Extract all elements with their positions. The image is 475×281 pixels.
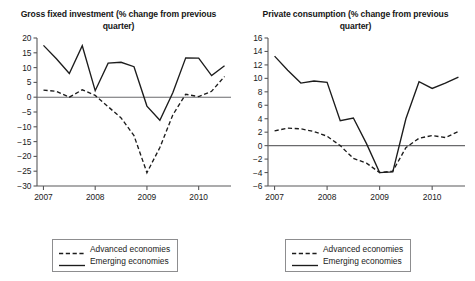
y-tick-label: −15	[17, 137, 32, 147]
y-tick-label: −2	[253, 154, 263, 164]
y-tick-label: −25	[17, 166, 32, 176]
legend-label: Advanced economies	[323, 244, 403, 255]
legend-right: Advanced economiesEmerging economies	[285, 239, 411, 272]
y-tick-label: 0	[27, 92, 32, 102]
series-line-dashed	[43, 76, 224, 172]
solid-line-icon	[59, 256, 85, 266]
y-tick-label: −20	[17, 151, 32, 161]
y-tick-label: 6	[258, 100, 263, 110]
y-tick-label: 4	[258, 114, 263, 124]
y-tick-label: 0	[258, 141, 263, 151]
chart-title-left: Gross fixed investment (% change from pr…	[0, 0, 237, 32]
y-tick-label: −5	[22, 107, 32, 117]
y-tick-label: 10	[253, 73, 263, 83]
x-tick-label: 2007	[265, 192, 284, 202]
x-tick-label: 2008	[318, 192, 337, 202]
y-tick-label: 20	[22, 33, 32, 43]
dashed-line-icon	[59, 244, 85, 254]
chart-panels: Gross fixed investment (% change from pr…	[0, 0, 475, 281]
x-tick-label: 2010	[189, 192, 208, 202]
y-tick-label: −30	[17, 181, 32, 191]
x-tick-label: 2009	[138, 192, 157, 202]
panel-private-consumption: Private consumption (% change from previ…	[237, 0, 474, 281]
legend-left: Advanced economiesEmerging economies	[52, 239, 178, 272]
y-tick-label: −4	[253, 168, 263, 178]
legend-row: Advanced economies	[59, 243, 170, 255]
y-tick-label: 12	[253, 60, 263, 70]
x-tick-label: 2007	[34, 192, 53, 202]
legend-label: Advanced economies	[90, 244, 170, 255]
legend-label: Emerging economies	[90, 256, 169, 267]
plot-area-right: 1614121086420−2−4−62007200820092010	[237, 32, 474, 207]
y-tick-label: −10	[17, 122, 32, 132]
y-tick-label: 14	[253, 46, 263, 56]
y-tick-label: 10	[22, 63, 32, 73]
chart-title-right: Private consumption (% change from previ…	[237, 0, 474, 32]
line-chart-left: 20151050−5−10−15−20−25−30200720082009201…	[0, 32, 237, 202]
plot-area-left: 20151050−5−10−15−20−25−30200720082009201…	[0, 32, 237, 207]
series-line-solid	[43, 45, 224, 120]
y-tick-label: −6	[253, 181, 263, 191]
y-tick-label: 5	[27, 77, 32, 87]
x-tick-label: 2009	[370, 192, 389, 202]
x-tick-label: 2010	[423, 192, 442, 202]
y-tick-label: 16	[253, 33, 263, 43]
series-line-solid	[275, 56, 459, 172]
series-line-dashed	[275, 128, 459, 172]
panel-gross-fixed-investment: Gross fixed investment (% change from pr…	[0, 0, 237, 281]
y-tick-label: 8	[258, 87, 263, 97]
y-tick-label: 2	[258, 127, 263, 137]
dashed-line-icon	[292, 244, 318, 254]
line-chart-right: 1614121086420−2−4−62007200820092010	[237, 32, 474, 202]
solid-line-icon	[292, 256, 318, 266]
legend-label: Emerging economies	[323, 256, 402, 267]
legend-row: Advanced economies	[292, 243, 403, 255]
x-tick-label: 2008	[86, 192, 105, 202]
y-tick-label: 15	[22, 48, 32, 58]
legend-row: Emerging economies	[292, 255, 403, 267]
legend-row: Emerging economies	[59, 255, 170, 267]
